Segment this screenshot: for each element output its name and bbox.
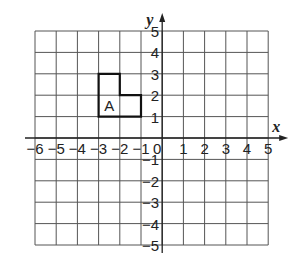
y-tick-label: −3 — [142, 194, 159, 211]
y-tick-label: 5 — [151, 23, 159, 40]
y-tick-label: 4 — [151, 44, 159, 61]
y-tick-label: 2 — [151, 87, 159, 104]
x-tick-label: 3 — [222, 140, 230, 157]
x-tick-label: −4 — [69, 140, 86, 157]
x-tick-label: 2 — [200, 140, 208, 157]
x-axis-arrow-icon — [279, 135, 288, 141]
y-tick-label: −4 — [142, 216, 159, 233]
x-axis-label: x — [271, 118, 280, 135]
y-tick-label: 3 — [151, 66, 159, 83]
y-tick-label: −2 — [142, 173, 159, 190]
shape-a-label: A — [104, 97, 114, 114]
x-tick-label: 5 — [264, 140, 272, 157]
y-tick-label: −5 — [142, 237, 159, 254]
x-tick-label: −5 — [48, 140, 65, 157]
x-tick-label: −2 — [111, 140, 128, 157]
coordinate-grid: xy−6−5−4−3−2−101234554321−1−2−3−4−5A — [0, 0, 292, 270]
x-tick-label: 4 — [243, 140, 251, 157]
x-tick-label: −3 — [90, 140, 107, 157]
y-axis-arrow-icon — [159, 13, 165, 22]
y-tick-label: −1 — [142, 151, 159, 168]
y-tick-label: 1 — [151, 109, 159, 126]
x-tick-label: −6 — [26, 140, 43, 157]
x-tick-label: 1 — [179, 140, 187, 157]
